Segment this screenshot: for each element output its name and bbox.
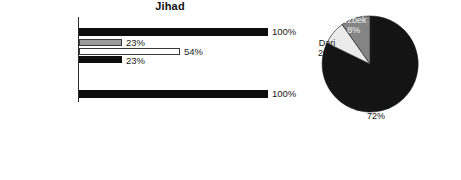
bar-chart: Jihad Nangarhar Balkh Kandahar 100% 23% … [0,0,305,125]
bar-value-kandahar: 100% [272,89,296,99]
pie-chart: Uzbek 8% Dari 20% Pashto 72% [305,0,461,140]
bar-value-balkh-white: 54% [184,47,203,57]
bar-balkh-54-white[interactable] [79,48,180,55]
pie-label-uzbek-name: Uzbek [341,15,367,25]
pie-label-pashto-pct: 72% [362,111,390,121]
pie-label-uzbek: Uzbek 8% [341,15,367,35]
bar-value-balkh-gray: 23% [126,38,145,48]
pie-label-dari-name: Dari [319,38,336,48]
bar-kandahar-100[interactable] [79,90,268,98]
bar-value-nangarhar: 100% [272,27,296,37]
bar-value-balkh-black: 23% [126,56,145,66]
pie-label-uzbek-pct: 8% [341,25,367,35]
bar-balkh-23-gray[interactable] [79,39,122,46]
pie-label-dari: Dari 20% [318,38,336,58]
bar-nangarhar-100[interactable] [79,28,268,36]
pie-label-dari-pct: 20% [318,48,336,58]
bar-balkh-23-black[interactable] [79,56,122,63]
pie-label-pashto: Pashto 72% [362,101,390,121]
bar-chart-title: Jihad [110,0,230,12]
pie-label-pashto-name: Pashto [362,101,390,111]
figure-container: Jihad Nangarhar Balkh Kandahar 100% 23% … [0,0,461,180]
